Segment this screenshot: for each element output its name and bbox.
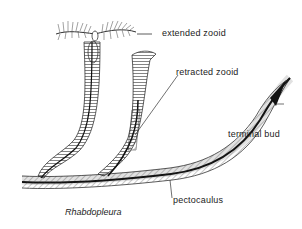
label-extended-zooid: extended zooid — [162, 28, 226, 38]
rhabdopleura-diagram: extended zooid retracted zooid terminal … — [0, 0, 302, 229]
figure-caption: Rhabdopleura — [65, 207, 122, 217]
middle-tube — [98, 51, 178, 176]
label-pectocaulus: pectocaulus — [173, 195, 223, 205]
diagram-drawing — [0, 0, 302, 229]
label-retracted-zooid: retracted zooid — [176, 67, 239, 77]
extended-zooid-crown — [56, 21, 152, 41]
leader-pectocaulus — [170, 180, 172, 198]
label-terminal-bud: terminal bud — [228, 129, 280, 139]
left-tube — [38, 41, 100, 178]
